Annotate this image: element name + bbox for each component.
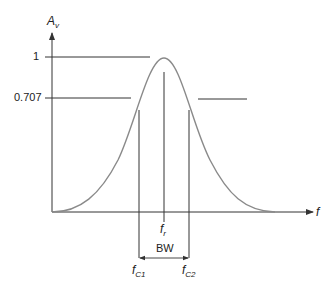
y-axis-label: Av xyxy=(47,14,59,28)
y-tick-1: 1 xyxy=(33,50,39,62)
fc1-label: fC1 xyxy=(132,263,146,277)
y-tick-0707: 0.707 xyxy=(14,91,42,103)
fc1-label-sub: C1 xyxy=(135,270,145,279)
y-axis-label-sub: v xyxy=(55,21,59,30)
fr-label-sub: r xyxy=(163,229,166,238)
bandwidth-label: BW xyxy=(156,242,174,254)
fr-label: fr xyxy=(160,222,166,236)
y-axis-label-main: A xyxy=(47,14,55,28)
fc2-label-sub: C2 xyxy=(185,270,195,279)
fc2-label: fC2 xyxy=(182,263,196,277)
x-axis-label: f xyxy=(316,205,319,219)
